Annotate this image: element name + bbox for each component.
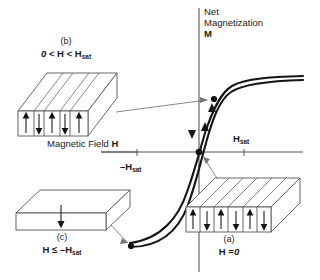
leader-line-panel-b <box>116 100 207 112</box>
panel-a-caption: (a) H =0 <box>188 234 270 257</box>
panel-a-h1: H <box>219 246 226 257</box>
h-sat-positive-symbol: H <box>233 133 240 144</box>
tick-label-h-sat-positive: Hsat <box>233 133 249 144</box>
panel-a-front-face <box>186 207 271 232</box>
y-axis-label-line2: Magnetization <box>204 17 263 28</box>
panel-b-caption: (b) 0 < H < Hsat <box>20 36 112 59</box>
panel-c-block <box>16 190 130 230</box>
h-sat-positive-subscript: sat <box>240 138 249 145</box>
origin-point <box>196 149 203 156</box>
y-axis-symbol: M <box>204 28 263 39</box>
x-axis-symbol: H <box>111 138 118 149</box>
panel-a-tag: (a) <box>188 234 270 245</box>
panel-c-caption: (c) H ≤ –Hsat <box>18 232 106 255</box>
panel-b-zero: 0 <box>41 48 46 59</box>
panel-b-h1: H <box>57 48 64 59</box>
upper-branch-point <box>211 96 217 102</box>
panel-b-condition: 0 < H < Hsat <box>20 48 112 59</box>
arrow-down-descending <box>188 130 196 139</box>
panel-c-tag: (c) <box>18 232 106 243</box>
panel-b-lt1: < <box>49 48 55 59</box>
leader-arrowhead-a <box>203 157 210 164</box>
panel-a-block <box>186 178 300 232</box>
panel-b-h2-subscript: sat <box>82 53 91 60</box>
panel-c-condition: H ≤ –Hsat <box>18 244 106 255</box>
leader-arrowhead-b <box>200 97 208 103</box>
hysteresis-figure: Net Magnetization M Magnetic Field H Hsa… <box>0 0 320 280</box>
panel-a-condition: H =0 <box>188 246 270 257</box>
x-axis-label: Magnetic Field H <box>47 138 118 149</box>
x-axis-label-text: Magnetic Field <box>47 138 109 149</box>
lower-saturation-point <box>128 243 134 249</box>
y-axis-label-line1: Net <box>204 6 263 17</box>
panel-c-h2-subscript: sat <box>72 249 81 256</box>
tick-label-h-sat-negative: –Hsat <box>120 161 142 172</box>
panel-c-h1: H <box>43 244 50 255</box>
panel-a-zero: 0 <box>234 246 239 257</box>
panel-b-tag: (b) <box>20 36 112 47</box>
panel-b-lt2: < <box>67 48 73 59</box>
panel-b-block <box>18 73 117 136</box>
panel-c-le: ≤ <box>52 244 57 255</box>
h-sat-negative-subscript: sat <box>132 166 141 173</box>
panel-b-h2: H <box>75 48 82 59</box>
y-axis-label: Net Magnetization M <box>204 6 263 40</box>
